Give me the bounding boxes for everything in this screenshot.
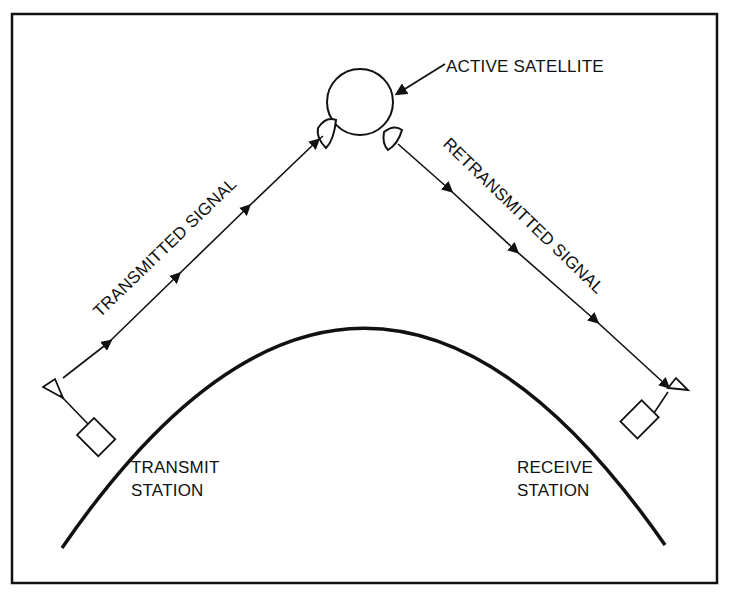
satellite-label: ACTIVE SATELLITE [446,57,604,76]
receive-antenna-icon [668,378,688,390]
transmit-station-label-line2: STATION [131,481,204,500]
earth-surface [62,328,665,548]
receive-building-icon [620,400,658,438]
uplink-signal-path [63,136,323,378]
transmit-station-icon [43,379,115,456]
satellite-dish-left-icon [318,119,336,148]
transmit-building-icon [77,418,115,456]
satellite-dish-right-icon [384,127,403,150]
receive-station-icon [620,378,688,439]
receive-station-label-line1: RECEIVE [517,458,593,477]
receive-station-label-line2: STATION [517,481,590,500]
satellite-pointer-arrow [400,64,445,92]
downlink-label: RETRANSMITTED SIGNAL [439,134,607,297]
transmit-station-label-line1: TRANSMIT [131,458,219,477]
uplink-label: TRANSMITTED SIGNAL [90,174,241,321]
downlink-signal-path [398,144,666,385]
satellite-icon [318,69,402,150]
satellite-diagram: ACTIVE SATELLITE TRANSMITTED SIGNAL RETR… [0,0,730,600]
